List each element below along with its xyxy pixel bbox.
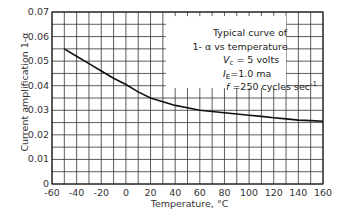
x-tick-label: 80 <box>218 187 230 198</box>
annotation-line: f =250 cycles sec-1 <box>226 80 317 92</box>
x-tick-label: 140 <box>289 187 307 198</box>
x-tick-label: 20 <box>144 187 156 198</box>
x-tick-label: 0 <box>123 187 129 198</box>
y-axis-label: Current amplification 1-α <box>19 32 30 151</box>
x-tick-label: 120 <box>265 187 283 198</box>
x-axis-label: Temperature, °C <box>150 198 229 209</box>
y-tick-label: 0.06 <box>28 31 49 42</box>
y-tick-label: 0.01 <box>28 153 49 164</box>
x-tick-label: -20 <box>94 187 110 198</box>
x-tick-label: 60 <box>194 187 206 198</box>
y-axis-ticks: 00.010.020.030.040.050.060.07 <box>28 6 49 189</box>
y-tick-label: 0 <box>43 178 49 189</box>
y-tick-label: 0.04 <box>28 80 49 91</box>
annotation-box: Typical curve of1- α vs temperatureVc = … <box>166 16 317 92</box>
annotation-line: Typical curve of <box>212 27 288 38</box>
annotation-line: 1- α vs temperature <box>192 41 287 52</box>
x-tick-label: 40 <box>169 187 181 198</box>
x-tick-label: 160 <box>314 187 332 198</box>
y-tick-label: 0.07 <box>28 6 49 17</box>
x-tick-label: 100 <box>240 187 258 198</box>
x-tick-label: -40 <box>69 187 85 198</box>
y-tick-label: 0.02 <box>28 129 49 140</box>
y-tick-label: 0.05 <box>28 55 49 66</box>
x-axis-ticks: -60-40-20020406080100120140160 <box>44 187 332 198</box>
line-chart: Typical curve of1- α vs temperatureVc = … <box>0 0 339 211</box>
y-tick-label: 0.03 <box>28 104 49 115</box>
